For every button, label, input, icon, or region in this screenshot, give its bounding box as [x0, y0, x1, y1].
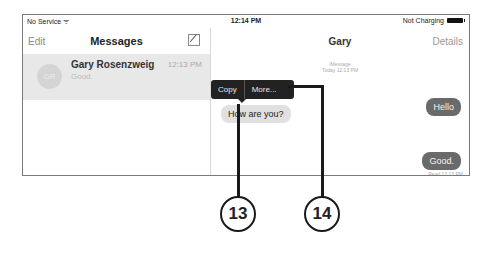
- status-bar: No Service ᯤ 12:14 PM Not Charging: [23, 15, 469, 28]
- conversation-list-pane: Edit Messages GR Gary Rosenzweig 12:13 P…: [23, 28, 211, 176]
- callout-line-14: [321, 85, 324, 198]
- conversation-name: Gary Rosenzweig: [71, 59, 154, 70]
- copy-menu-item[interactable]: Copy: [211, 80, 244, 99]
- callout-13: 13: [220, 196, 256, 232]
- conversation-time: 12:13 PM: [168, 60, 202, 69]
- conversation-preview: Good.: [71, 72, 93, 81]
- callout-14: 14: [304, 196, 340, 232]
- more-menu-item[interactable]: More...: [245, 80, 284, 99]
- timestamp-label: Today 12:13 PM: [211, 67, 469, 73]
- battery-status: Not Charging: [403, 17, 463, 24]
- chat-pane: Gary Details iMessage Today 12:13 PM Cop…: [211, 28, 469, 176]
- ipad-screen: No Service ᯤ 12:14 PM Not Charging Edit …: [22, 14, 470, 176]
- sidebar-title: Messages: [23, 35, 210, 47]
- service-timestamp: iMessage Today 12:13 PM: [211, 61, 469, 73]
- details-button[interactable]: Details: [432, 36, 463, 47]
- conversation-row[interactable]: GR Gary Rosenzweig 12:13 PM Good.: [23, 54, 210, 100]
- compose-icon[interactable]: [188, 34, 200, 46]
- battery-icon: [447, 18, 463, 23]
- outgoing-message-bubble[interactable]: Good.: [422, 152, 461, 170]
- avatar: GR: [37, 64, 62, 89]
- context-menu: Copy More...: [211, 80, 294, 99]
- callout-line-13: [237, 104, 240, 198]
- incoming-message-bubble[interactable]: How are you?: [221, 105, 291, 123]
- context-menu-pointer: [238, 99, 246, 103]
- sidebar-header: Edit Messages: [23, 28, 210, 54]
- callout-connector-14: [288, 85, 324, 88]
- read-receipt: Read 12:13 PM: [428, 171, 463, 176]
- outgoing-message-bubble[interactable]: Hello: [426, 98, 461, 116]
- chat-title: Gary: [211, 36, 469, 47]
- battery-text: Not Charging: [403, 17, 444, 24]
